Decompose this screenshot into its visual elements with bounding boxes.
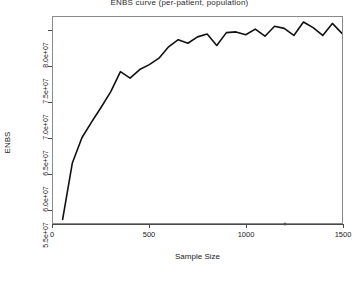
x-axis-tick bbox=[343, 224, 344, 228]
x-axis-title: Sample Size bbox=[52, 252, 343, 261]
optimal-sample-size-marker bbox=[283, 223, 286, 226]
x-axis-tick-label: 0 bbox=[50, 230, 54, 239]
x-axis-tick-label: 1500 bbox=[335, 230, 352, 239]
x-axis-tick bbox=[246, 224, 247, 228]
x-axis-tick-label: 1000 bbox=[238, 230, 255, 239]
x-axis-line bbox=[52, 224, 343, 225]
x-axis-tick bbox=[149, 224, 150, 228]
chart-figure: ENBS curve (per-patient, population) ENB… bbox=[0, 0, 359, 284]
x-axis-tick bbox=[52, 224, 53, 228]
plot-area bbox=[52, 16, 343, 224]
enbs-line bbox=[63, 22, 342, 219]
x-axis-tick-label: 500 bbox=[143, 230, 156, 239]
data-series-enbs bbox=[53, 17, 342, 223]
